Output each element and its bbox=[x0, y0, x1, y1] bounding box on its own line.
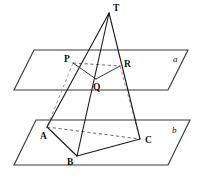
geometry-canvas: T P Q R A B C a b bbox=[0, 0, 201, 184]
edge-ac-dashed bbox=[47, 127, 140, 139]
edge-pa-guide-dashed bbox=[47, 63, 73, 127]
label-a: A bbox=[40, 131, 47, 141]
edge-bc bbox=[77, 139, 140, 156]
label-c: C bbox=[145, 135, 152, 145]
label-q: Q bbox=[93, 82, 100, 92]
label-p: P bbox=[64, 54, 70, 64]
edge-ab bbox=[47, 127, 77, 156]
edge-ta bbox=[47, 13, 109, 127]
geometry-figure: T P Q R A B C a b bbox=[0, 0, 201, 184]
label-r: R bbox=[124, 59, 131, 69]
upper-plane-alpha bbox=[14, 50, 188, 90]
label-b: B bbox=[67, 157, 74, 167]
label-plane-alpha: a bbox=[173, 54, 178, 64]
lower-plane-beta bbox=[14, 120, 190, 165]
label-plane-beta: b bbox=[172, 125, 177, 135]
edge-pq bbox=[73, 63, 96, 79]
edge-qr bbox=[96, 66, 120, 79]
label-t: T bbox=[113, 3, 120, 13]
